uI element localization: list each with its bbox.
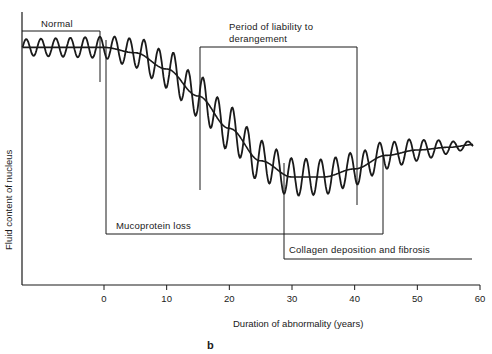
x-axis-label: Duration of abnormality (years) [233, 318, 363, 329]
x-tick-label: 60 [475, 293, 486, 304]
liability-label-line2: derangement [229, 33, 287, 45]
oscillating-curve [23, 37, 474, 196]
x-tick-label: 40 [349, 293, 360, 304]
trend-curve [23, 47, 474, 177]
normal-label: Normal [41, 18, 73, 30]
collagen-label: Collagen deposition and fibrosis [289, 244, 430, 256]
x-tick-label: 50 [412, 293, 423, 304]
panel-label: b [207, 339, 214, 351]
annotation-brackets [22, 31, 472, 259]
x-tick-label: 20 [224, 293, 235, 304]
mucoprotein-label: Mucoprotein loss [116, 220, 191, 232]
x-tick-label: 0 [101, 293, 106, 304]
y-axis-label: Fluid content of nucleus [3, 150, 14, 250]
x-tick-label: 30 [287, 293, 298, 304]
x-tick-label: 10 [161, 293, 172, 304]
liability-label-line1: Period of liability to [229, 21, 313, 33]
x-axis-ticks [104, 285, 480, 290]
